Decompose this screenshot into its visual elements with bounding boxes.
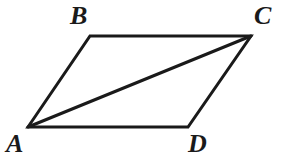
vertex-label-d: D [188, 131, 207, 157]
vertex-label-b: B [70, 3, 87, 29]
geometry-figure: B C A D [0, 0, 294, 165]
diagonal-segment-ac [28, 36, 251, 127]
parallelogram-diagram [0, 0, 294, 165]
vertex-label-c: C [254, 3, 271, 29]
vertex-label-a: A [6, 131, 23, 157]
